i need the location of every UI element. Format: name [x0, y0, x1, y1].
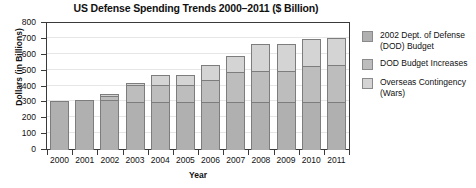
legend-label: Overseas Contingency(Wars) — [380, 77, 466, 98]
bar-group — [126, 83, 145, 150]
bar-group — [277, 44, 296, 150]
bar-group — [327, 38, 346, 150]
bar-group — [176, 75, 195, 150]
bar-segment — [176, 75, 195, 84]
bar-segment — [126, 102, 145, 150]
legend-swatch-icon — [362, 59, 373, 70]
bar-segment — [226, 102, 245, 150]
y-tick-mark — [41, 117, 46, 118]
y-tick-label: 0 — [8, 145, 36, 153]
defense-spending-chart-figure: US Defense Spending Trends 2000–2011 ($ … — [0, 0, 476, 188]
bar-segment — [226, 72, 245, 102]
bar-segment — [277, 102, 296, 150]
bar-segment — [327, 102, 346, 150]
y-tick-label: 300 — [8, 97, 36, 105]
legend-item: 2002 Dept. of Defense(DOD) Budget — [362, 30, 474, 51]
y-tick-mark — [41, 54, 46, 55]
chart-title: US Defense Spending Trends 2000–2011 ($ … — [46, 2, 346, 14]
y-tick-mark — [41, 38, 46, 39]
y-tick-mark — [41, 86, 46, 87]
legend-swatch-icon — [362, 31, 373, 42]
bar-group — [226, 56, 245, 150]
y-tick-label: 600 — [8, 50, 36, 58]
bar-segment — [151, 75, 170, 84]
bar-segment — [75, 100, 94, 150]
bar-segment — [251, 102, 270, 150]
bar-segment — [302, 66, 321, 103]
x-axis-title: Year — [46, 170, 350, 180]
y-tick-mark — [41, 22, 46, 23]
bar-group — [151, 75, 170, 150]
bar-group — [50, 101, 69, 150]
y-tick-label: 700 — [8, 34, 36, 42]
bar-segment — [251, 71, 270, 103]
y-tick-label: 500 — [8, 66, 36, 74]
y-tick-mark — [41, 149, 46, 150]
y-tick-label: 200 — [8, 113, 36, 121]
bar-segment — [100, 100, 119, 150]
legend-label: 2002 Dept. of Defense(DOD) Budget — [380, 30, 465, 51]
bar-segment — [126, 85, 145, 103]
x-tick-label: 2011 — [318, 155, 354, 165]
bar-group — [201, 65, 220, 150]
bar-group — [302, 39, 321, 150]
bar-segment — [201, 65, 220, 80]
bar-segment — [251, 44, 270, 71]
bar-segment — [277, 44, 296, 70]
bar-segment — [176, 102, 195, 150]
bar-group — [75, 100, 94, 150]
y-tick-mark — [41, 101, 46, 102]
bar-segment — [302, 102, 321, 150]
bar-segment — [302, 39, 321, 66]
x-tick-mark — [349, 150, 350, 155]
legend-label: DOD Budget Increases — [380, 58, 467, 69]
y-tick-label: 100 — [8, 129, 36, 137]
chart-legend: 2002 Dept. of Defense(DOD) BudgetDOD Bud… — [362, 30, 474, 105]
y-tick-mark — [41, 133, 46, 134]
y-tick-mark — [41, 70, 46, 71]
y-tick-label: 400 — [8, 82, 36, 90]
bar-segment — [151, 102, 170, 150]
legend-item: DOD Budget Increases — [362, 58, 474, 70]
legend-item: Overseas Contingency(Wars) — [362, 77, 474, 98]
bar-segment — [176, 85, 195, 103]
legend-swatch-icon — [362, 78, 373, 89]
bar-segment — [50, 101, 69, 150]
bar-segment — [201, 80, 220, 102]
bar-segment — [327, 65, 346, 102]
bar-group — [100, 94, 119, 150]
bar-segment — [327, 38, 346, 65]
bar-segment — [151, 85, 170, 103]
bar-group — [251, 44, 270, 150]
bars-layer — [47, 23, 349, 150]
bar-segment — [226, 56, 245, 73]
y-tick-label: 800 — [8, 18, 36, 26]
bar-segment — [277, 71, 296, 103]
bar-segment — [201, 102, 220, 150]
